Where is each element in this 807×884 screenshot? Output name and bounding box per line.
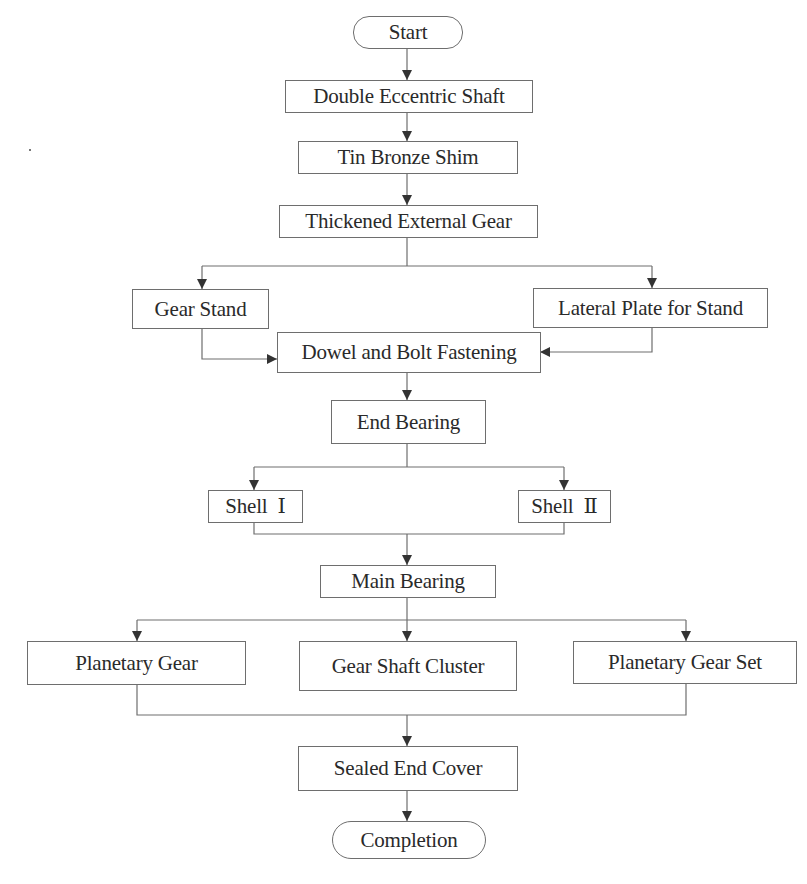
stray-mark — [29, 149, 31, 151]
node-label: Start — [389, 20, 428, 45]
dowel-bolt-fastening-box: Dowel and Bolt Fastening — [277, 332, 541, 373]
node-label: Sealed End Cover — [334, 756, 482, 781]
tin-bronze-shim-box: Tin Bronze Shim — [298, 141, 518, 174]
double-eccentric-shaft-box: Double Eccentric Shaft — [285, 80, 533, 113]
planetary-gear-box: Planetary Gear — [27, 641, 246, 685]
thickened-external-gear-box: Thickened External Gear — [279, 205, 538, 238]
node-label: Dowel and Bolt Fastening — [301, 340, 516, 365]
node-label: Shell Ⅰ — [225, 494, 285, 519]
sealed-end-cover-box: Sealed End Cover — [298, 746, 518, 791]
node-label: Planetary Gear Set — [608, 650, 762, 675]
node-label: Gear Stand — [155, 297, 247, 322]
planetary-gear-set-box: Planetary Gear Set — [573, 641, 797, 684]
node-label: Tin Bronze Shim — [338, 145, 479, 170]
node-label: Double Eccentric Shaft — [313, 84, 505, 109]
lateral-plate-box: Lateral Plate for Stand — [533, 288, 768, 328]
node-label: Thickened External Gear — [305, 209, 511, 234]
gear-stand-box: Gear Stand — [132, 289, 269, 329]
gear-shaft-cluster-box: Gear Shaft Cluster — [299, 641, 517, 691]
node-label: Planetary Gear — [75, 651, 198, 676]
node-label: Gear Shaft Cluster — [332, 654, 485, 679]
node-label: Main Bearing — [351, 569, 465, 594]
node-label: Lateral Plate for Stand — [558, 296, 743, 321]
end-bearing-box: End Bearing — [331, 400, 486, 444]
node-label: Completion — [360, 828, 457, 853]
start-terminator: Start — [353, 16, 463, 49]
main-bearing-box: Main Bearing — [320, 565, 496, 598]
node-label: End Bearing — [357, 410, 460, 435]
completion-terminator: Completion — [332, 821, 486, 859]
shell-1-box: Shell Ⅰ — [208, 490, 303, 523]
flowchart-canvas: Start Double Eccentric Shaft Tin Bronze … — [0, 0, 807, 884]
shell-2-box: Shell Ⅱ — [518, 490, 611, 523]
node-label: Shell Ⅱ — [531, 494, 597, 519]
